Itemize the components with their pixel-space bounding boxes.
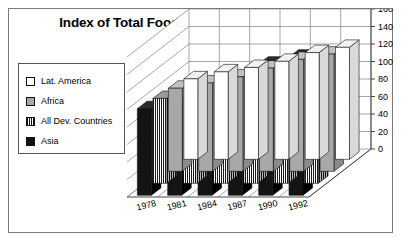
y-axis-tick-label: 100 xyxy=(378,57,393,67)
y-axis-tick-label: 20 xyxy=(378,127,388,137)
x-axis-tick-label: 1990 xyxy=(257,198,279,213)
bar-chart-3d: 0204060801001201401601978198119841987199… xyxy=(9,9,394,234)
bar-lat-america-1990 xyxy=(305,45,329,159)
bar-lat-america-1981 xyxy=(214,64,238,159)
x-axis-tick-label: 1992 xyxy=(287,198,309,213)
bar-lat-america-1987 xyxy=(275,54,299,159)
y-axis-tick-label: 60 xyxy=(378,92,388,102)
x-axis-tick-label: 1984 xyxy=(196,198,218,213)
y-axis-tick-label: 40 xyxy=(378,109,388,119)
y-axis-tick-label: 0 xyxy=(378,144,383,154)
x-axis-tick-label: 1978 xyxy=(135,198,157,213)
x-axis-tick-label: 1981 xyxy=(166,198,188,213)
chart-plot-area: 0204060801001201401601978198119841987199… xyxy=(9,9,394,234)
x-axis-tick-label: 1987 xyxy=(226,198,248,213)
bar-lat-america-1984 xyxy=(245,60,269,159)
y-axis-tick-label: 120 xyxy=(378,39,393,49)
bar-lat-america-1978 xyxy=(184,71,208,159)
bar-lat-america-1992 xyxy=(336,40,360,159)
chart-frame: Index of Total Food Production (1979-81=… xyxy=(8,8,393,233)
y-axis-tick-label: 80 xyxy=(378,74,388,84)
y-axis-tick-label: 140 xyxy=(378,22,393,32)
y-axis-tick-label: 160 xyxy=(378,9,393,14)
